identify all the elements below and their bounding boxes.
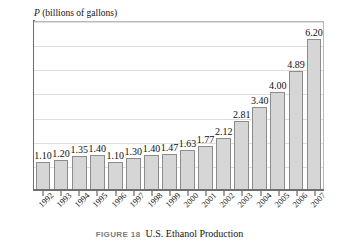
bar[interactable] (180, 150, 195, 189)
bar-value-label: 2.81 (233, 110, 251, 120)
bar-value-label: 1.63 (179, 139, 197, 149)
figure-container: P (billions of gallons) 1.101.201.351.40… (0, 0, 339, 247)
x-label-cell-2004: 2004 (252, 196, 270, 224)
bar-group-1997: 1.30 (124, 22, 142, 189)
x-label-cell-1995: 1995 (88, 196, 106, 224)
y-axis-label: P (billions of gallons) (34, 8, 117, 19)
x-label-cell-2003: 2003 (233, 196, 251, 224)
plot-area: 1.101.201.351.401.101.301.401.471.631.77… (34, 21, 324, 190)
x-label-cell-2005: 2005 (270, 196, 288, 224)
bar[interactable] (144, 155, 159, 189)
bar[interactable] (108, 162, 123, 189)
bar-group-2002: 2.12 (215, 22, 233, 189)
clipped-text-bleed (34, 0, 334, 5)
x-label-cell-1993: 1993 (52, 196, 70, 224)
bar-group-1995: 1.40 (88, 22, 106, 189)
bar-value-label: 3.40 (251, 96, 269, 106)
x-label-cell-1997: 1997 (125, 196, 143, 224)
bar-value-label: 4.89 (287, 60, 305, 70)
bar-value-label: 1.10 (34, 151, 52, 161)
bar-value-label: 1.35 (70, 145, 88, 155)
x-label-cell-1996: 1996 (107, 196, 125, 224)
bar-value-label: 2.12 (215, 127, 233, 137)
bar-series: 1.101.201.351.401.101.301.401.471.631.77… (34, 22, 323, 189)
bar[interactable] (270, 92, 285, 189)
x-label-cell-2000: 2000 (179, 196, 197, 224)
bar[interactable] (198, 146, 213, 189)
bar[interactable] (289, 71, 304, 189)
x-label-cell-2001: 2001 (197, 196, 215, 224)
bar[interactable] (54, 160, 69, 189)
x-label-cell-1998: 1998 (143, 196, 161, 224)
bar[interactable] (126, 158, 141, 189)
bar[interactable] (36, 162, 51, 189)
bar-group-1992: 1.10 (34, 22, 52, 189)
bar-value-label: 1.10 (107, 151, 125, 161)
bar[interactable] (162, 154, 177, 189)
bar-value-label: 6.20 (305, 28, 323, 38)
bar-group-2003: 2.81 (233, 22, 251, 189)
figure-title: U.S. Ethanol Production (146, 228, 244, 239)
x-label-cell-1992: 1992 (34, 196, 52, 224)
bar-group-2001: 1.77 (197, 22, 215, 189)
x-label-cell-2006: 2006 (288, 196, 306, 224)
bar[interactable] (216, 138, 231, 189)
x-label-cell-1999: 1999 (161, 196, 179, 224)
x-axis-labels: 1992199319941995199619971998199920002001… (34, 196, 324, 224)
bar[interactable] (252, 107, 267, 189)
figure-caption: FIGURE 18 U.S. Ethanol Production (0, 228, 339, 240)
bar-group-1994: 1.35 (70, 22, 88, 189)
bar-group-2004: 3.40 (251, 22, 269, 189)
bar-value-label: 1.47 (161, 143, 179, 153)
bar[interactable] (234, 121, 249, 189)
bar-value-label: 1.20 (52, 149, 70, 159)
figure-number: FIGURE 18 (96, 230, 141, 239)
bar-group-2000: 1.63 (179, 22, 197, 189)
bar-group-1993: 1.20 (52, 22, 70, 189)
bar[interactable] (72, 156, 87, 189)
bar-value-label: 1.40 (143, 144, 161, 154)
bar-group-2007: 6.20 (305, 22, 323, 189)
bar-group-2005: 4.00 (269, 22, 287, 189)
y-axis-variable: P (34, 8, 40, 18)
bar-value-label: 1.77 (197, 135, 215, 145)
bar[interactable] (90, 155, 105, 189)
bar-group-1998: 1.40 (142, 22, 160, 189)
bar-value-label: 1.30 (125, 147, 143, 157)
bar-group-1999: 1.47 (160, 22, 178, 189)
bar-group-1996: 1.10 (106, 22, 124, 189)
y-axis-units: (billions of gallons) (42, 8, 117, 18)
x-label-cell-1994: 1994 (70, 196, 88, 224)
bar-value-label: 4.00 (269, 81, 287, 91)
bar[interactable] (307, 39, 322, 189)
x-label-cell-2002: 2002 (215, 196, 233, 224)
bar-value-label: 1.40 (88, 144, 106, 154)
bar-group-2006: 4.89 (287, 22, 305, 189)
x-label-cell-2007: 2007 (306, 196, 324, 224)
